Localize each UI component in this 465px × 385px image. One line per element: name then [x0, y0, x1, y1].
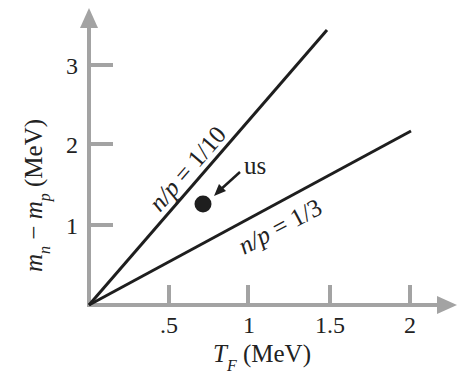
- y-axis-arrow-icon: [80, 8, 98, 28]
- x-axis: .5 1 1.5 2: [87, 285, 457, 338]
- x-tick-label-1: 1: [243, 312, 255, 338]
- label-us: us: [244, 152, 266, 179]
- y-tick-label-2: 2: [66, 132, 78, 158]
- x-tick-label-1.5: 1.5: [315, 312, 345, 338]
- data-point-us: [195, 196, 212, 213]
- y-tick-label-1: 1: [66, 213, 78, 239]
- label-np-1-10: n/p = 1/10: [143, 121, 231, 216]
- x-tick-label-0.5: .5: [160, 312, 178, 338]
- x-tick-label-2: 2: [404, 312, 416, 338]
- chart: 1 2 3 .5 1 1.5 2 TF (MeV) mn − mp (MeV) …: [0, 0, 465, 385]
- y-axis-title: mn − mp (MeV): [20, 119, 54, 272]
- y-tick-label-3: 3: [66, 53, 78, 79]
- x-axis-arrow-icon: [437, 296, 457, 314]
- line-np-1-10: [89, 30, 327, 305]
- x-axis-title: TF (MeV): [213, 340, 311, 374]
- y-axis: 1 2 3: [66, 8, 113, 306]
